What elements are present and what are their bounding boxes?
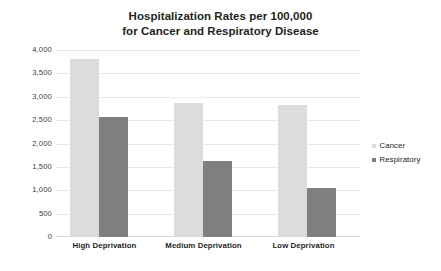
legend-item-cancer[interactable]: Cancer (372, 139, 438, 152)
bars-layer (56, 50, 360, 237)
legend-swatch-icon-respiratory (372, 158, 376, 162)
y-tick-label: 2,000 (2, 140, 52, 148)
bar-respiratory-low[interactable] (307, 188, 336, 237)
x-axis: High Deprivation Medium Deprivation Low … (56, 241, 360, 257)
bar-chart: Hospitalization Rates per 100,000 for Ca… (0, 0, 441, 271)
chart-title: Hospitalization Rates per 100,000 for Ca… (0, 9, 441, 39)
bar-respiratory-medium[interactable] (203, 161, 232, 237)
y-tick-label: 0 (2, 233, 52, 241)
bar-cancer-low[interactable] (278, 105, 307, 237)
legend-swatch-icon-cancer (372, 144, 376, 148)
y-tick-label: 3,000 (2, 93, 52, 101)
bar-cancer-high[interactable] (70, 59, 99, 237)
y-tick-label: 3,500 (2, 69, 52, 77)
legend-label-cancer: Cancer (380, 141, 406, 150)
chart-title-line-1: Hospitalization Rates per 100,000 (0, 9, 441, 24)
legend-item-respiratory[interactable]: Respiratory (372, 153, 438, 166)
y-tick-label: 4,000 (2, 46, 52, 54)
chart-title-line-2: for Cancer and Respiratory Disease (0, 24, 441, 39)
y-tick-label: 2,500 (2, 116, 52, 124)
y-axis: 4,000 3,500 3,000 2,500 2,000 1,500 1,00… (0, 50, 52, 237)
bar-cancer-medium[interactable] (174, 103, 203, 237)
y-tick-label: 1,500 (2, 163, 52, 171)
x-tick-label-low: Low Deprivation (221, 241, 386, 251)
y-tick-label: 1,000 (2, 186, 52, 194)
legend: Cancer Respiratory (372, 139, 438, 167)
bar-respiratory-high[interactable] (99, 117, 128, 237)
legend-label-respiratory: Respiratory (380, 155, 421, 164)
y-tick-label: 500 (2, 210, 52, 218)
